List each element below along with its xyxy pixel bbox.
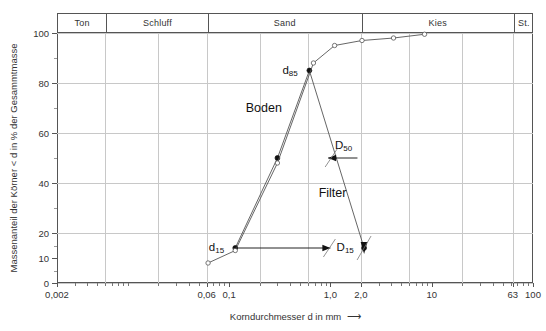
x-axis-minor-tick xyxy=(416,283,417,286)
soil-class-label: Kies xyxy=(429,18,447,28)
x-axis-tick-label: 0,1 xyxy=(222,289,235,300)
data-point-filter xyxy=(391,36,395,40)
x-axis-minor-tick xyxy=(523,283,524,286)
x-axis-minor-tick xyxy=(300,283,301,286)
annotation-d50: D50 xyxy=(335,139,352,153)
soil-class-divider xyxy=(208,14,209,32)
x-axis-minor-tick xyxy=(427,283,428,286)
x-axis-tick-label: 0,06 xyxy=(197,289,216,300)
plot-area: 01020406080100 0,0020,060,11,02,01063100… xyxy=(57,33,533,283)
x-axis-minor-tick xyxy=(213,283,214,286)
soil-class-label: Schluff xyxy=(143,18,172,28)
x-axis-minor-tick xyxy=(219,283,220,286)
soil-class-label: Sand xyxy=(274,18,296,28)
x-axis-minor-tick xyxy=(528,283,529,286)
x-axis-minor-tick xyxy=(493,283,494,286)
y-axis-tick-label: 100 xyxy=(9,28,49,39)
soil-class-divider xyxy=(106,14,107,32)
x-axis-tick-label: 63 xyxy=(507,289,518,300)
x-axis-tick xyxy=(361,283,362,287)
soil-class-label: Ton xyxy=(75,18,90,28)
x-axis-minor-tick xyxy=(308,283,309,286)
x-axis-tick xyxy=(533,283,534,287)
soil-class-sand: Sand xyxy=(208,14,362,32)
x-axis-minor-tick xyxy=(199,283,200,286)
annotation-subscript: 15 xyxy=(215,246,224,255)
annotation-text: Filter xyxy=(319,186,347,200)
soil-class-divider xyxy=(514,14,515,32)
y-axis-tick-label: 0 xyxy=(9,278,49,289)
annotation-d15: d15 xyxy=(209,241,224,255)
soil-class-band: TonSchluffSandKiesSt. xyxy=(57,13,533,33)
x-axis-minor-tick xyxy=(401,283,402,286)
soil-class-ton: Ton xyxy=(58,14,106,32)
x-axis-tick xyxy=(57,283,58,287)
y-axis-title: Massenanteil der Körner < d in % der Ges… xyxy=(8,44,19,273)
D15-endpoint-arrow-tick xyxy=(357,236,371,260)
x-axis-minor-tick xyxy=(503,283,504,286)
data-point-filter xyxy=(275,161,279,165)
x-axis-title-text: Korndurchmesser d in mm xyxy=(230,311,341,322)
x-axis-tick-label: 0,002 xyxy=(45,289,69,300)
x-axis-minor-tick xyxy=(277,283,278,286)
annotation-d15: D15 xyxy=(337,241,354,255)
x-axis-minor-tick xyxy=(87,283,88,286)
annotation-text: Boden xyxy=(246,101,282,115)
data-point-filter xyxy=(332,43,336,47)
x-axis-minor-tick xyxy=(75,283,76,286)
x-axis-minor-tick xyxy=(158,283,159,286)
soil-class-st: St. xyxy=(514,14,534,32)
data-point-filter xyxy=(311,61,315,65)
x-axis-minor-tick xyxy=(118,283,119,286)
x-axis-tick xyxy=(432,283,433,287)
x-axis-tick-label: 1,0 xyxy=(324,289,337,300)
annotation-subscript: 85 xyxy=(289,69,298,78)
x-axis-minor-tick xyxy=(315,283,316,286)
x-axis-tick xyxy=(207,283,208,287)
x-axis-minor-tick xyxy=(391,283,392,286)
x-axis-minor-tick xyxy=(379,283,380,286)
x-axis-tick xyxy=(513,283,514,287)
soil-class-schluff: Schluff xyxy=(106,14,207,32)
soil-class-label: St. xyxy=(518,18,530,28)
x-axis-minor-tick xyxy=(128,283,129,286)
x-axis-minor-tick xyxy=(105,283,106,286)
annotation-boden: Boden xyxy=(246,101,282,115)
x-axis-tick xyxy=(330,283,331,287)
x-axis-tick-label: 2,0 xyxy=(354,289,367,300)
grain-size-distribution-chart: TonSchluffSandKiesSt. 01020406080100 0,0… xyxy=(0,0,546,331)
soil-class-kies: Kies xyxy=(362,14,514,32)
annotation-subscript: 15 xyxy=(345,246,354,255)
x-axis-minor-tick xyxy=(112,283,113,286)
x-axis-minor-tick xyxy=(326,283,327,286)
x-axis-tick-label: 10 xyxy=(426,289,437,300)
x-axis-minor-tick xyxy=(422,283,423,286)
x-axis-minor-tick xyxy=(321,283,322,286)
x-axis-tick xyxy=(229,283,230,287)
x-axis-minor-tick xyxy=(189,283,190,286)
annotation-subscript: 50 xyxy=(343,144,352,153)
annotation-filter: Filter xyxy=(319,186,347,200)
data-point-filter xyxy=(422,32,426,36)
curve-boden xyxy=(235,71,364,249)
x-axis-tick-label: 100 xyxy=(525,289,541,300)
soil-class-divider xyxy=(362,14,363,32)
x-axis-minor-tick xyxy=(511,283,512,286)
x-axis-minor-tick xyxy=(176,283,177,286)
x-axis-minor-tick xyxy=(290,283,291,286)
curve-filter xyxy=(208,34,424,263)
data-point-filter xyxy=(360,38,364,42)
x-axis-minor-tick xyxy=(97,283,98,286)
data-point-filter xyxy=(233,248,237,252)
annotation-d85: d85 xyxy=(282,64,297,78)
x-axis-arrow-icon: ⟶ xyxy=(344,311,360,322)
x-axis-minor-tick xyxy=(224,283,225,286)
x-axis-minor-tick xyxy=(409,283,410,286)
data-point-filter xyxy=(206,261,210,265)
x-axis-minor-tick xyxy=(517,283,518,286)
x-axis-title: Korndurchmesser d in mm ⟶ xyxy=(230,311,360,322)
x-axis-minor-tick xyxy=(480,283,481,286)
x-axis-minor-tick xyxy=(462,283,463,286)
x-axis-minor-tick xyxy=(260,283,261,286)
x-axis-minor-tick xyxy=(123,283,124,286)
